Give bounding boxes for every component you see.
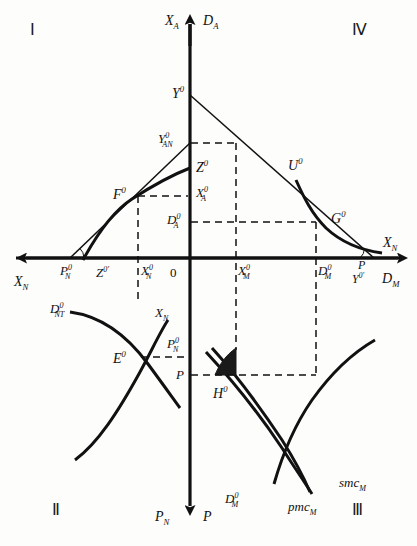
label-z0: Z0 (196, 159, 208, 175)
axis-label-dm: DM (382, 272, 399, 288)
axis-label-xa: XA (165, 14, 179, 30)
point-label-e0: E0 (113, 350, 126, 366)
point-label-f0: F0 (113, 186, 126, 202)
social-marginal-cost-smc (274, 340, 375, 484)
label-yan0: Y0AN (158, 132, 173, 149)
label-xa0: X0A (196, 186, 206, 203)
quadrant-label-III: Ⅲ (352, 500, 364, 519)
point-label-g0: G0 (331, 210, 345, 226)
axis-point-xn0: X0N (141, 264, 151, 281)
axis-origin-label: 0 (170, 266, 177, 279)
curve-label-xn-supply: XN (155, 306, 168, 323)
label-da0: D0A (167, 213, 178, 230)
supply-curve-xn (75, 320, 168, 460)
axis-point-pn0: P0N (60, 264, 70, 281)
quadrant-label-I: Ⅰ (30, 20, 36, 39)
axis-label-xn-left: XN (14, 275, 28, 291)
point-label-h0: H0 (213, 385, 227, 401)
quadrant-label-IV: Ⅳ (352, 20, 368, 39)
quadrant-label-II: Ⅱ (52, 500, 61, 519)
axis-label-da: DA (203, 14, 218, 30)
curve-label-dm0: D0M (225, 492, 238, 509)
price-label-pn0: P0N (167, 337, 178, 354)
label-y0: Y0 (172, 85, 184, 101)
income-budget-line (190, 95, 374, 258)
axis-point-p: P (358, 259, 365, 271)
axis-point-dm0: D0M (318, 264, 331, 281)
diagram-canvas: Ⅰ Ⅳ Ⅱ Ⅲ XA DA XN XN DM PN P Y0 Y0AN Z0 X… (0, 0, 417, 546)
curve-label-smc: smcM (339, 476, 366, 493)
welfare-triangle-shaded (215, 348, 236, 375)
curve-label-pmc: pmcM (288, 500, 316, 517)
axis-label-p: P (203, 510, 212, 524)
price-label-p: P (176, 368, 184, 381)
curve-label-dnt: D0NT (50, 302, 64, 319)
axis-label-xn-right: XN (383, 236, 397, 252)
curve-label-u0: U0 (288, 157, 302, 173)
axis-point-y0prime: Y0' (352, 272, 364, 285)
axis-point-z0prime: Z0' (96, 266, 109, 279)
axis-label-pn: PN (155, 510, 169, 526)
axis-point-xm0: X0M (238, 264, 250, 281)
